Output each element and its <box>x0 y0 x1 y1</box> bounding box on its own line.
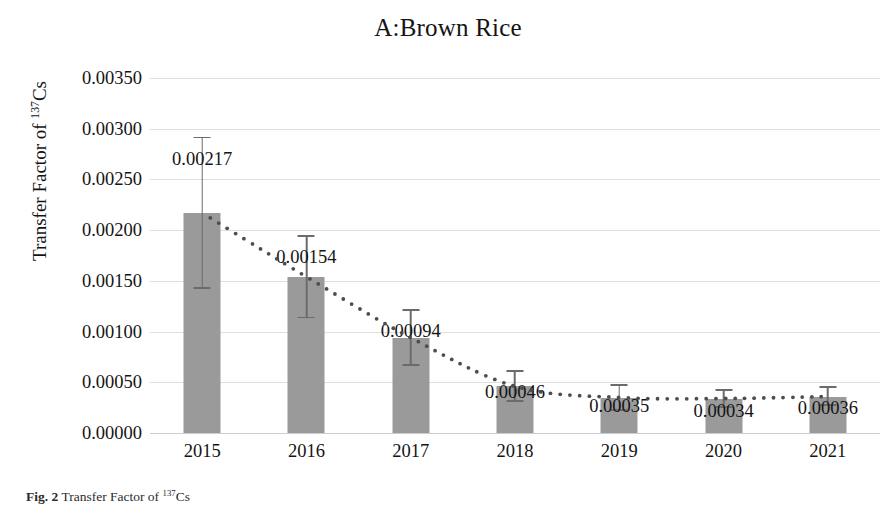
x-axis-tick-label: 2021 <box>776 441 880 462</box>
y-axis-tick-label: 0.00200 <box>42 220 142 241</box>
chart-title: A:Brown Rice <box>0 14 896 42</box>
error-bar-cap-top <box>298 235 315 237</box>
y-axis-tick-label: 0.00050 <box>42 372 142 393</box>
x-axis-tick-labels: 2015201620172018201920202021 <box>150 441 880 471</box>
error-bar-cap-bottom <box>402 364 419 366</box>
x-axis-tick-label: 2019 <box>567 441 671 462</box>
bar-group-2020[interactable]: 0.00034 <box>671 78 775 433</box>
y-axis-tick-label: 0.00150 <box>42 270 142 291</box>
data-label: 0.00035 <box>589 396 649 417</box>
y-axis-tick-label: 0.00350 <box>42 68 142 89</box>
bar-group-2016[interactable]: 0.00154 <box>254 78 358 433</box>
bar-group-2019[interactable]: 0.00035 <box>567 78 671 433</box>
data-label: 0.00036 <box>798 398 858 419</box>
x-axis-tick-label: 2020 <box>671 441 775 462</box>
y-axis-tick-label: 0.00100 <box>42 321 142 342</box>
axis-baseline <box>150 433 880 434</box>
data-label: 0.00094 <box>381 321 441 342</box>
y-axis-tick-label: 0.00250 <box>42 169 142 190</box>
error-bar-cap-bottom <box>298 317 315 319</box>
x-axis-tick-label: 2015 <box>150 441 254 462</box>
x-axis-tick-label: 2018 <box>463 441 567 462</box>
data-label: 0.00217 <box>172 149 232 170</box>
data-label: 0.00046 <box>485 382 545 403</box>
y-axis-tick-label: 0.00000 <box>42 423 142 444</box>
error-bar-cap-top <box>506 370 523 372</box>
error-bar-cap-bottom <box>194 287 211 289</box>
figure: A:Brown Rice Transfer Factor of 137Cs 0.… <box>0 0 896 506</box>
data-label: 0.00034 <box>694 401 754 422</box>
bar-group-2018[interactable]: 0.00046 <box>463 78 567 433</box>
error-bar-cap-top <box>611 384 628 386</box>
y-axis-tick-label: 0.00300 <box>42 118 142 139</box>
bar-group-2017[interactable]: 0.00094 <box>359 78 463 433</box>
error-bar-cap-top <box>194 137 211 139</box>
x-axis-tick-label: 2017 <box>359 441 463 462</box>
error-bar-cap-top <box>715 389 732 391</box>
bar-group-2021[interactable]: 0.00036 <box>776 78 880 433</box>
x-axis-tick-label: 2016 <box>254 441 358 462</box>
figure-caption: Fig. 2 Transfer Factor of 137Cs <box>26 489 876 505</box>
bar-group-2015[interactable]: 0.00217 <box>150 78 254 433</box>
error-bar-cap-top <box>402 309 419 311</box>
error-bar-cap-top <box>819 386 836 388</box>
data-label: 0.00154 <box>276 247 336 268</box>
y-axis-tick-labels: 0.000000.000500.001000.001500.002000.002… <box>38 78 142 433</box>
plot-area: 0.002170.001540.000940.000460.000350.000… <box>150 78 880 433</box>
